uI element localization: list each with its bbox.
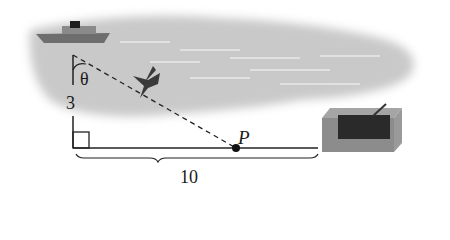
building-icon — [322, 104, 402, 152]
point-label: P — [238, 128, 250, 147]
brace — [76, 154, 318, 162]
angle-label: θ — [80, 70, 89, 88]
horizontal-distance-label: 10 — [180, 168, 198, 186]
vertical-distance-label: 3 — [66, 94, 75, 112]
right-angle-marker — [73, 132, 89, 148]
